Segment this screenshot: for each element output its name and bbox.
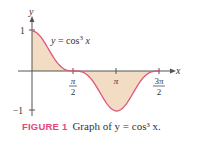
caption-text: Graph of y = cos³ x. [72, 120, 160, 132]
y-tick-label-neg1: −1 [13, 106, 23, 116]
x-axis-label: x [175, 65, 181, 76]
x-tick-label-3pi-half-num: 3π [154, 76, 164, 86]
curve-equation-label: y = cos3 x [50, 34, 90, 46]
y-tick-label-1: 1 [20, 26, 25, 36]
x-tick-label-pi-half-num: π [71, 76, 76, 86]
x-tick-label-pi-half-den: 2 [71, 87, 76, 97]
figure-label: FIGURE 1 [22, 121, 67, 132]
x-tick-label-pi: π [114, 76, 119, 86]
figure-caption: FIGURE 1Graph of y = cos³ x. [22, 120, 161, 132]
x-tick-label-3pi-half-den: 2 [157, 87, 162, 97]
y-axis-label: y [28, 6, 34, 17]
